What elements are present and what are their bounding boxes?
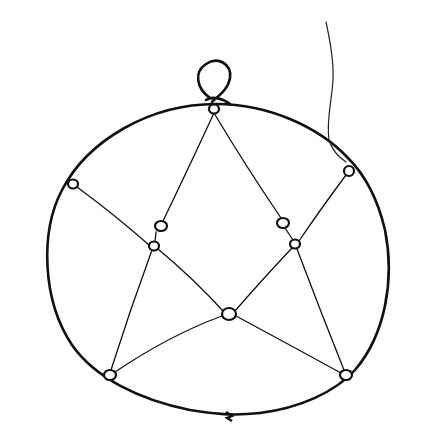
bead-right-outer: [344, 166, 354, 176]
string-line: [158, 249, 223, 311]
bead-center-bottom: [222, 308, 236, 320]
string-line: [214, 113, 281, 218]
bead-top: [209, 105, 219, 114]
string-line: [236, 316, 341, 373]
outer-ring: [47, 104, 389, 414]
string-line: [77, 187, 149, 245]
bead-left-inner-lower: [149, 242, 159, 251]
bead-left-inner-upper: [155, 221, 167, 231]
beads: [68, 105, 354, 381]
bead-left-outer: [68, 180, 78, 189]
loose-thread: [326, 22, 346, 162]
string-line: [163, 113, 214, 221]
bead-right-inner-lower: [290, 240, 300, 249]
string-line: [297, 249, 344, 370]
string-line: [235, 248, 292, 311]
illustration-canvas: [0, 0, 437, 437]
bead-bottom-left: [104, 370, 116, 380]
string-line: [299, 175, 346, 241]
hanging-loop: [198, 61, 230, 104]
string-net: [77, 113, 346, 373]
string-line: [285, 228, 293, 240]
bead-bottom-right: [340, 370, 352, 380]
string-line: [115, 316, 222, 372]
bead-right-inner-upper: [277, 218, 289, 228]
dreamcatcher-drawing: [0, 0, 437, 437]
